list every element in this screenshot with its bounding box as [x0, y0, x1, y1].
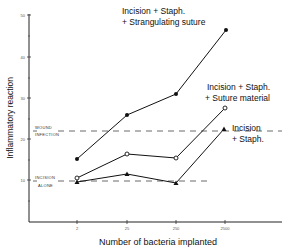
wound-infection-label-2: INFECTION [35, 132, 59, 137]
annotation-suture-2: + Suture material [205, 93, 270, 103]
point-filled-circle [174, 92, 178, 96]
incision-alone-label-1: INCISION [35, 175, 55, 180]
point-filled-circle [224, 28, 228, 32]
y-tick-labels: 50 40 30 20 10 [21, 13, 26, 183]
line-chart: 50 40 30 20 10 2 25 250 2500 Number of b… [0, 0, 289, 248]
point-open-circle [223, 106, 227, 110]
x-tick-250: 250 [173, 226, 180, 231]
y-tick-50: 50 [21, 13, 26, 18]
annotation-staph-1: Incision [232, 123, 261, 133]
point-open-circle [125, 152, 129, 156]
point-open-circle [75, 176, 79, 180]
point-filled-circle [75, 157, 79, 161]
x-axis-label: Number of bacteria implanted [99, 237, 217, 247]
point-filled-circle [125, 113, 129, 117]
x-tick-2500: 2500 [221, 226, 231, 231]
annotation-strangulating-1: Incision + Staph. [122, 6, 185, 16]
incision-alone-label-2: ALONE [38, 183, 53, 188]
annotation-suture-1: Incision + Staph. [207, 82, 270, 92]
annotation-strangulating-2: + Strangulating suture [122, 17, 206, 27]
point-triangle [222, 127, 227, 132]
x-tick-labels: 2 25 250 2500 [76, 226, 230, 231]
y-tick-10: 10 [21, 178, 26, 183]
y-tick-40: 40 [21, 55, 26, 60]
point-open-circle [174, 156, 178, 160]
y-axis-label: Inflammatory reaction [5, 77, 15, 159]
y-tick-20: 20 [21, 137, 26, 142]
point-triangle [125, 172, 130, 177]
x-tick-2: 2 [76, 226, 79, 231]
wound-infection-label-1: WOUND [35, 125, 52, 130]
annotation-staph-2: + Staph. [232, 134, 264, 144]
x-tick-25: 25 [125, 226, 130, 231]
series-suture-material [75, 106, 227, 180]
y-tick-30: 30 [21, 96, 26, 101]
